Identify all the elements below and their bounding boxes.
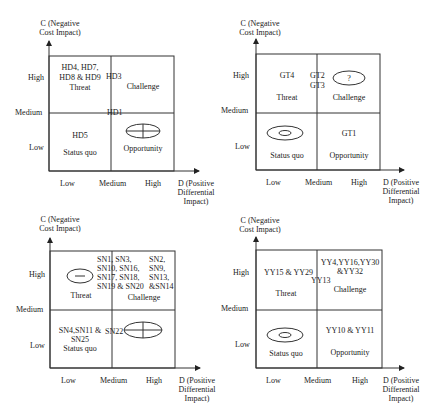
concentric-ellipse-icon <box>267 328 303 342</box>
x-axis-title-line2: Differential <box>173 385 221 394</box>
item-label: HD4, HD7, <box>52 63 108 72</box>
x-axis-title-line1: D (Positive <box>172 179 220 188</box>
item-label: YY15 & YY29 <box>264 268 313 277</box>
item-label: HD1 <box>107 108 123 117</box>
x-tick-low: Low <box>61 376 76 385</box>
x-tick-medium: Medium <box>305 178 332 187</box>
x-axis-title-line1: D (Positive <box>377 376 425 385</box>
y-axis-title-line1: C (Negative <box>230 19 290 28</box>
y-tick-medium: Medium <box>221 106 248 115</box>
item-label: SN13, <box>149 273 169 282</box>
x-axis-title-line3: Impact) <box>172 197 220 206</box>
quadrant-label-threat: Threat <box>258 289 314 298</box>
quadrant-label-threat: Threat <box>52 83 108 92</box>
x-tick-high: High <box>351 178 367 187</box>
quadrant-label-threat: Threat <box>53 291 109 300</box>
quadrant-label-status-quo: Status quo <box>259 151 315 160</box>
y-tick-low: Low <box>30 341 45 350</box>
quadrant-label-threat: Threat <box>259 93 315 102</box>
y-tick-low: Low <box>29 143 44 152</box>
item-label: SN1, SN3, <box>97 255 131 264</box>
item-label: HD5 <box>52 131 108 140</box>
item-label: YY10 & YY11 <box>320 326 380 335</box>
ellipse-minus-icon <box>67 269 93 283</box>
x-tick-medium: Medium <box>99 179 126 188</box>
item-label: HD3 <box>106 72 122 81</box>
y-axis-title-line2: Cost Impact) <box>30 28 90 37</box>
quadrant-label-challenge: Challenge <box>320 93 378 102</box>
quadrant-label-status-quo: Status quo <box>50 344 110 353</box>
y-axis-title-line1: C (Negative <box>30 19 90 28</box>
y-tick-medium: Medium <box>15 108 42 117</box>
x-tick-low: Low <box>266 178 281 187</box>
x-tick-high: High <box>146 376 162 385</box>
y-tick-high: High <box>28 73 44 82</box>
quadrant-label-opportunity: Opportunity <box>114 144 172 153</box>
x-axis-title-line3: Impact) <box>377 196 425 205</box>
item-label: SN22 <box>105 327 123 336</box>
y-tick-medium: Medium <box>221 304 248 313</box>
item-label: &YY32 <box>318 267 382 276</box>
x-tick-medium: Medium <box>100 376 127 385</box>
y-axis-title-line2: Cost Impact) <box>30 224 90 233</box>
item-label: HD8 & HD9 <box>52 73 108 82</box>
y-axis-title-line2: Cost Impact) <box>230 28 290 37</box>
item-label: SN17, SN18, <box>97 273 139 282</box>
ellipse-cross-icon <box>126 124 160 138</box>
y-tick-low: Low <box>235 340 250 349</box>
y-axis-title-line2: Cost Impact) <box>230 225 290 234</box>
quadrant-label-status-quo: Status quo <box>258 349 314 358</box>
x-tick-low: Low <box>266 376 281 385</box>
x-tick-low: Low <box>60 179 75 188</box>
item-label: SN19 & SN20 <box>97 282 144 291</box>
item-label: SN2, <box>149 255 165 264</box>
x-axis-title-line3: Impact) <box>377 394 425 403</box>
item-label: GT1 <box>320 129 378 138</box>
question-mark: ? <box>341 74 357 83</box>
x-axis-title-line1: D (Positive <box>173 376 221 385</box>
item-label: &SN14 <box>149 282 173 291</box>
quadrant-label-opportunity: Opportunity <box>320 348 380 357</box>
y-axis-title-line1: C (Negative <box>230 216 290 225</box>
x-tick-high: High <box>145 179 161 188</box>
y-tick-high: High <box>29 270 45 279</box>
y-tick-high: High <box>233 268 249 277</box>
x-tick-high: High <box>352 376 368 385</box>
item-label: YY13 <box>311 276 331 285</box>
quadrant-label-opportunity: Opportunity <box>320 151 378 160</box>
x-axis-title-line2: Differential <box>172 188 220 197</box>
x-axis-title-line2: Differential <box>377 187 425 196</box>
y-tick-medium: Medium <box>16 305 43 314</box>
y-tick-high: High <box>233 71 249 80</box>
item-label: SN4,SN11 & <box>50 326 110 335</box>
item-label: YY4,YY16,YY30 <box>318 258 382 267</box>
x-axis-title-line3: Impact) <box>173 394 221 403</box>
quadrant-label-challenge: Challenge <box>320 285 380 294</box>
item-label: SN9, <box>149 264 165 273</box>
y-tick-low: Low <box>235 142 250 151</box>
quadrant-label-challenge: Challenge <box>115 293 173 302</box>
item-label: SN25 <box>50 335 110 344</box>
x-axis-title-line2: Differential <box>377 385 425 394</box>
item-label: GT2 <box>310 71 325 80</box>
x-axis-title-line1: D (Positive <box>377 178 425 187</box>
y-axis-title-line1: C (Negative <box>30 215 90 224</box>
ellipse-cross-icon <box>124 322 162 338</box>
item-label: GT4 <box>259 71 315 80</box>
item-label: GT3 <box>310 81 325 90</box>
x-tick-medium: Medium <box>304 376 331 385</box>
item-label: SN10, SN16, <box>97 264 139 273</box>
quadrant-label-challenge: Challenge <box>114 82 172 91</box>
concentric-ellipse-icon <box>267 126 303 140</box>
quadrant-label-status-quo: Status quo <box>52 148 108 157</box>
